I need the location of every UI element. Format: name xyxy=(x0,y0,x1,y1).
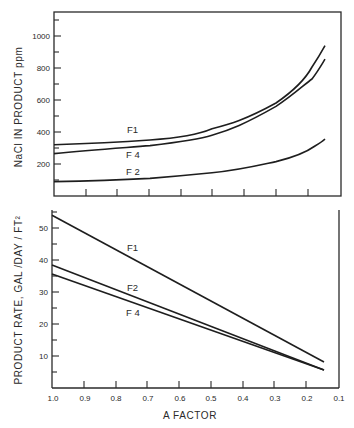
upper-ytick-200: 200 xyxy=(37,160,51,169)
upper-curve-f2 xyxy=(54,139,325,182)
xtick-0.4: 0.4 xyxy=(237,394,249,403)
x-axis-title: A FACTOR xyxy=(163,410,217,421)
x-tick-labels: 1.0 0.9 0.8 0.7 0.6 0.5 0.4 0.3 0.2 0.1 xyxy=(47,394,345,403)
upper-ytick-1000: 1000 xyxy=(32,32,50,41)
xtick-0.8: 0.8 xyxy=(110,394,122,403)
xtick-0.2: 0.2 xyxy=(301,394,313,403)
xtick-0.7: 0.7 xyxy=(142,394,154,403)
lower-y-ticks xyxy=(52,212,59,372)
lower-ytick-20: 20 xyxy=(39,320,48,329)
upper-curve-f1 xyxy=(54,46,325,145)
xtick-0.5: 0.5 xyxy=(205,394,217,403)
lower-ytick-10: 10 xyxy=(39,352,48,361)
lower-ytick-40: 40 xyxy=(39,256,48,265)
xtick-0.1: 0.1 xyxy=(333,394,345,403)
lower-plot: 10 20 30 40 50 F1 F2 F 4 PRODUCT RATE, G… xyxy=(13,210,339,388)
upper-ytick-800: 800 xyxy=(37,64,51,73)
upper-x-ticks xyxy=(86,189,308,196)
chart-figure: 200 400 600 800 1000 F1 F 4 F 2 NaCl IN … xyxy=(0,0,354,428)
xtick-1.0: 1.0 xyxy=(47,394,59,403)
lower-label-f4: F 4 xyxy=(126,307,140,318)
upper-plot-frame xyxy=(54,12,341,196)
upper-y-ticks xyxy=(54,20,61,180)
lower-ytick-50: 50 xyxy=(39,224,48,233)
lower-ytick-30: 30 xyxy=(39,288,48,297)
upper-label-f4: F 4 xyxy=(126,149,140,160)
upper-plot: 200 400 600 800 1000 F1 F 4 F 2 NaCl IN … xyxy=(13,12,341,196)
lower-y-tick-labels: 10 20 30 40 50 xyxy=(39,224,48,361)
upper-ytick-600: 600 xyxy=(37,96,51,105)
upper-y-tick-labels: 200 400 600 800 1000 xyxy=(32,32,50,169)
upper-ytick-400: 400 xyxy=(37,128,51,137)
upper-y-axis-title: NaCl IN PRODUCT ppm xyxy=(13,47,24,168)
lower-line-f2 xyxy=(52,265,324,370)
xtick-0.9: 0.9 xyxy=(79,394,91,403)
upper-label-f1: F1 xyxy=(127,124,138,135)
upper-label-f2: F 2 xyxy=(126,166,140,177)
lower-label-f2: F2 xyxy=(127,282,138,293)
xtick-0.3: 0.3 xyxy=(269,394,281,403)
upper-curve-f4 xyxy=(54,59,325,153)
lower-label-f1: F1 xyxy=(127,242,138,253)
xtick-0.6: 0.6 xyxy=(174,394,186,403)
lower-y-axis-title: PRODUCT RATE, GAL /DAY / FT² xyxy=(13,215,24,384)
lower-x-ticks xyxy=(84,381,306,388)
